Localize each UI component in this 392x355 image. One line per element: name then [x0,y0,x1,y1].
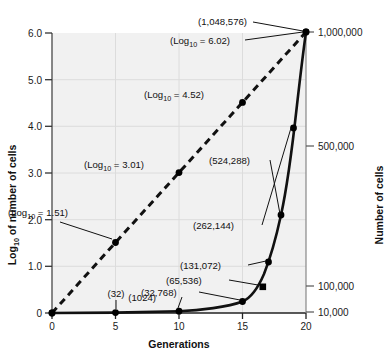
annotation-cells-131072: (131,072) [180,260,221,271]
annotation-cells-1024: (1024) [128,292,156,303]
ytick-label-4: 4.0 [28,121,42,132]
y-axis-right-title: Number of cells [373,165,385,244]
ytick-right-label-100000: 100,000 [318,281,355,292]
annotation-cells-262144: (262,144) [193,220,234,231]
y-axis-right-ticks [306,32,314,312]
annotation-cells-32: (32) [107,288,124,299]
x-axis-title: Generations [148,338,209,350]
ytick-right-label-10000: 10,000 [318,307,349,318]
y-axis-left-title-suffix: of number of cells [6,145,18,239]
annotation-cells-1048576: (1,048,576) [198,16,247,27]
ytick-label-1: 1.0 [28,261,42,272]
ytick-label-5: 5.0 [28,75,42,86]
xtick-label-15: 15 [237,321,249,332]
annotation-cells-65536: (65,536) [166,275,202,286]
xtick-label-5: 5 [113,321,119,332]
chart-svg: 0 1.0 2.0 3.0 4.0 5.0 6.0 0 5 10 15 20 1… [0,0,392,355]
y-axis-left-title: Log10 of number of cells [6,145,21,266]
xtick-label-0: 0 [49,321,55,332]
ytick-label-3: 3.0 [28,168,42,179]
ytick-label-0: 0 [36,308,42,319]
ytick-label-6: 6.0 [28,28,42,39]
ytick-right-label-1000000: 1,000,000 [318,27,363,38]
y-axis-left-title-prefix: Log [6,246,18,265]
xtick-label-20: 20 [300,321,312,332]
ytick-right-label-500000: 500,000 [318,141,355,152]
y-axis-left-title-subscript: 10 [12,238,21,246]
xtick-label-10: 10 [173,321,185,332]
y-axis-left-ticks [45,33,52,313]
growth-curve-figure: 0 1.0 2.0 3.0 4.0 5.0 6.0 0 5 10 15 20 1… [0,0,392,355]
annotation-cells-524288: (524,288) [209,155,250,166]
